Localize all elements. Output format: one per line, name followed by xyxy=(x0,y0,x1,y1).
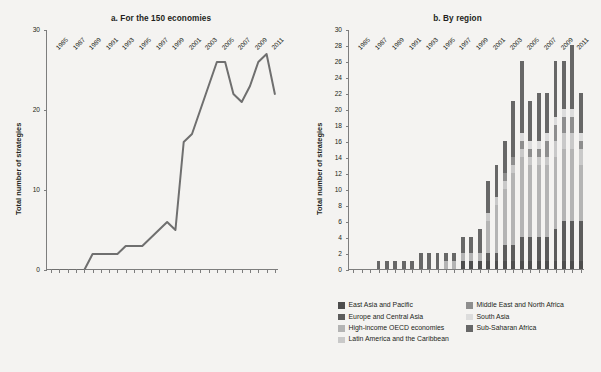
x-tick-mark xyxy=(454,269,455,273)
y-tick-label: 12 xyxy=(318,171,342,178)
bar-segment xyxy=(486,213,490,221)
legend-item[interactable]: Middle East and North Africa xyxy=(466,300,564,311)
bar-segment xyxy=(545,165,549,237)
bar-segment xyxy=(579,133,583,141)
x-tick-mark xyxy=(438,269,439,273)
figure-root: a. For the 150 economies Total number of… xyxy=(0,0,601,372)
panel-a-plot-area: 0102030198519871989199119931995199719992… xyxy=(46,30,278,270)
x-tick-mark xyxy=(505,269,506,273)
bar-segment xyxy=(503,189,507,245)
bar-segment xyxy=(495,261,499,269)
x-tick-mark xyxy=(412,269,413,273)
bar-segment xyxy=(385,261,389,269)
bar-segment xyxy=(562,149,566,221)
bar-segment xyxy=(554,61,558,117)
x-tick-mark xyxy=(51,269,52,273)
bar-stack xyxy=(410,261,414,269)
legend-swatch-icon xyxy=(338,302,345,309)
bar-segment xyxy=(452,261,456,269)
x-tick-mark xyxy=(429,269,430,273)
bar-segment xyxy=(495,205,499,253)
bar-segment xyxy=(528,165,532,237)
legend-item[interactable]: Europe and Central Asia xyxy=(338,311,449,322)
bar-segment xyxy=(579,221,583,261)
x-tick-mark xyxy=(488,269,489,273)
x-tick-mark xyxy=(68,269,69,273)
y-tick-label: 10 xyxy=(16,187,40,194)
x-tick-mark xyxy=(233,269,234,273)
legend-item[interactable]: Latin America and the Caribbean xyxy=(338,334,449,345)
bar-segment xyxy=(469,253,473,261)
bar-segment xyxy=(520,61,524,133)
y-tick-mark xyxy=(346,62,350,63)
bar-stack xyxy=(419,253,423,269)
x-tick-mark xyxy=(93,269,94,273)
y-tick-mark xyxy=(346,206,350,207)
x-tick-mark xyxy=(76,269,77,273)
x-tick-mark xyxy=(117,269,118,273)
bar-segment xyxy=(570,261,574,269)
bar-segment xyxy=(537,141,541,149)
bar-segment xyxy=(452,253,456,261)
bar-segment xyxy=(528,141,532,149)
bar-segment xyxy=(570,221,574,261)
y-tick-label: 22 xyxy=(318,91,342,98)
bar-segment xyxy=(520,133,524,141)
legend-item[interactable]: High-income OECD economies xyxy=(338,323,449,334)
x-tick-label: 2003 xyxy=(508,36,523,51)
bar-segment xyxy=(511,261,515,269)
x-tick-mark xyxy=(258,269,259,273)
x-tick-mark xyxy=(362,269,363,273)
legend-column-1: East Asia and PacificEurope and Central … xyxy=(338,300,449,346)
y-tick-mark xyxy=(44,190,48,191)
x-tick-mark xyxy=(109,269,110,273)
bar-segment xyxy=(503,245,507,261)
x-tick-mark xyxy=(556,269,557,273)
legend-label: Middle East and North Africa xyxy=(477,302,564,309)
x-tick-mark xyxy=(200,269,201,273)
x-tick-mark xyxy=(379,269,380,273)
bar-stack xyxy=(562,61,566,269)
x-tick-mark xyxy=(250,269,251,273)
x-tick-mark xyxy=(142,269,143,273)
bar-stack xyxy=(579,93,583,269)
bar-segment xyxy=(554,229,558,261)
y-tick-mark xyxy=(346,94,350,95)
bar-segment xyxy=(537,157,541,165)
bar-segment xyxy=(570,117,574,133)
y-tick-mark xyxy=(346,254,350,255)
bar-segment xyxy=(545,157,549,165)
bar-segment xyxy=(410,261,414,269)
x-tick-label: 1985 xyxy=(356,36,371,51)
y-tick-mark xyxy=(346,46,350,47)
bar-segment xyxy=(537,237,541,261)
bar-segment xyxy=(562,221,566,261)
bar-segment xyxy=(393,261,397,269)
bar-segment xyxy=(554,261,558,269)
y-tick-mark xyxy=(346,238,350,239)
legend-item[interactable]: East Asia and Pacific xyxy=(338,300,449,311)
x-tick-label: 2001 xyxy=(491,36,506,51)
bar-segment xyxy=(528,237,532,261)
bar-stack xyxy=(478,229,482,269)
y-tick-label: 28 xyxy=(318,43,342,50)
y-tick-mark xyxy=(346,126,350,127)
x-tick-mark xyxy=(242,269,243,273)
legend-swatch-icon xyxy=(338,337,345,344)
bar-segment xyxy=(503,261,507,269)
y-tick-label: 0 xyxy=(318,267,342,274)
legend-item[interactable]: South Asia xyxy=(466,311,564,322)
x-tick-mark xyxy=(267,269,268,273)
x-tick-mark xyxy=(572,269,573,273)
legend-item[interactable]: Sub-Saharan Africa xyxy=(466,323,564,334)
bar-stack xyxy=(520,61,524,269)
x-tick-mark xyxy=(134,269,135,273)
bar-stack xyxy=(486,181,490,269)
bar-segment xyxy=(486,253,490,261)
legend-label: Latin America and the Caribbean xyxy=(349,336,449,343)
bar-segment xyxy=(402,261,406,269)
x-tick-mark xyxy=(395,269,396,273)
x-tick-label: 1991 xyxy=(407,36,422,51)
bar-segment xyxy=(528,101,532,141)
x-tick-mark xyxy=(530,269,531,273)
